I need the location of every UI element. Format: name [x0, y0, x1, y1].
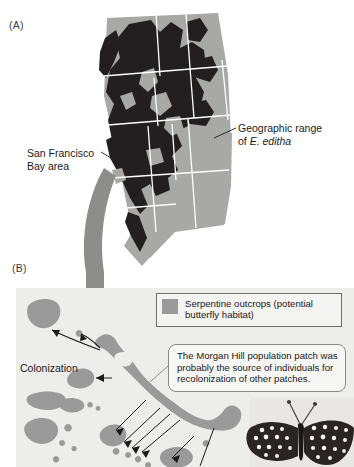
callout-line3: recolonization of other patches. [177, 373, 338, 385]
butterfly-illustration [246, 398, 354, 467]
geographic-range-line1: Geographic range [238, 122, 322, 135]
figure-graphics [0, 0, 354, 467]
patch-center-dot-3 [113, 448, 120, 455]
patch-south-dot-3 [71, 446, 76, 451]
callout-line2: probably the source of individuals for [177, 362, 338, 374]
serpentine-legend-text: Serpentine outcrops (potential butterfly… [185, 298, 313, 321]
panel-b-label: (B) [12, 262, 27, 274]
species-name: E. editha [250, 135, 291, 147]
panel-a-map [78, 13, 232, 318]
sf-bay-line2: Bay area [27, 160, 94, 173]
geographic-range-prefix: of [238, 135, 250, 147]
serpentine-legend-line1: Serpentine outcrops (potential [185, 298, 313, 309]
patch-south-dot-1 [64, 424, 72, 432]
patch-south-dot-2 [59, 440, 65, 446]
callout-line1: The Morgan Hill population patch was [177, 350, 338, 362]
antenna-club-left [287, 400, 291, 404]
colonization-label: Colonization [20, 362, 78, 374]
patch-center-dot-2 [96, 406, 101, 411]
patch-center-dot-1 [87, 402, 93, 408]
serpentine-swatch-icon [162, 299, 178, 314]
patch-center-dot-4 [125, 452, 131, 458]
geographic-range-label: Geographic range of E. editha [238, 122, 322, 147]
patch-south-dot-4 [53, 456, 59, 462]
morgan-hill-callout: The Morgan Hill population patch was pro… [168, 344, 346, 392]
serpentine-legend-line2: butterfly habitat) [185, 309, 313, 320]
geographic-range-line2: of E. editha [238, 135, 322, 148]
figure-container: (A) [0, 0, 354, 467]
san-francisco-bay-label: San Francisco Bay area [27, 147, 94, 172]
patch-center-dot-5 [135, 456, 141, 462]
sf-bay-line1: San Francisco [27, 147, 94, 160]
antenna-club-right [313, 402, 317, 406]
serpentine-legend: Serpentine outcrops (potential butterfly… [156, 293, 342, 327]
